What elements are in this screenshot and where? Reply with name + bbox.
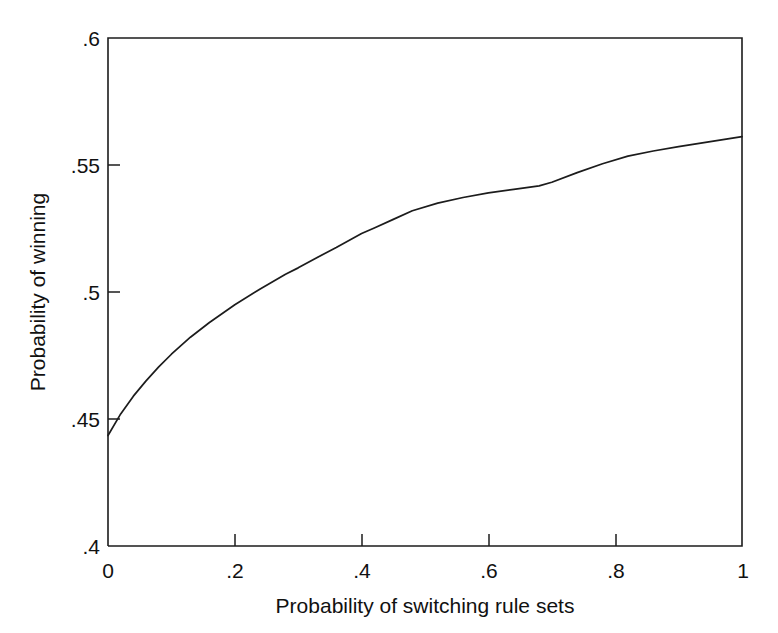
x-tick-label-0.8: .8 <box>607 559 625 582</box>
y-tick-label-0.55: .55 <box>71 154 100 177</box>
x-tick-label-0.2: .2 <box>226 559 244 582</box>
x-tick-label-1: 1 <box>737 559 749 582</box>
x-tick-label-0: 0 <box>102 559 114 582</box>
y-tick-label-0.45: .45 <box>71 408 100 431</box>
x-tick-label-0.4: .4 <box>353 559 371 582</box>
y-tick-label-0.5: .5 <box>82 281 100 304</box>
chart-background <box>0 0 778 633</box>
y-axis-title: Probability of winning <box>26 193 49 391</box>
x-axis-title: Probability of switching rule sets <box>276 594 575 617</box>
chart-figure: .6 .55 .5 .45 .4 0 .2 .4 .6 .8 1 Probabi… <box>0 0 778 633</box>
line-chart-canvas: .6 .55 .5 .45 .4 0 .2 .4 .6 .8 1 Probabi… <box>0 0 778 633</box>
y-tick-label-0.4: .4 <box>82 535 100 558</box>
x-tick-label-0.6: .6 <box>480 559 498 582</box>
y-tick-label-0.6: .6 <box>82 27 100 50</box>
